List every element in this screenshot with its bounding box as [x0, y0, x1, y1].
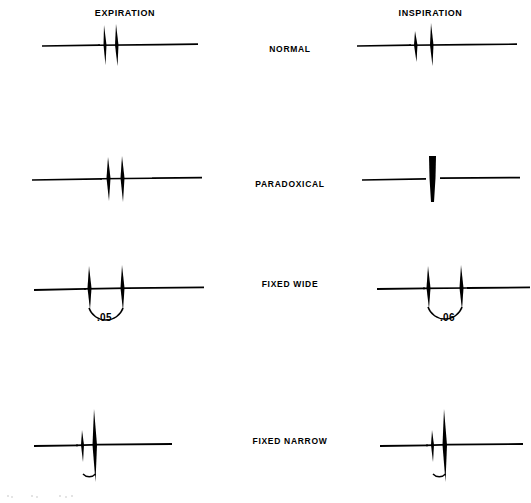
interval-value-fixed-wide-expiration: .05	[97, 312, 112, 323]
waveform-fixed-wide-expiration	[32, 258, 212, 338]
row-label-normal: NORMAL	[215, 44, 365, 54]
scan-artifact	[2, 492, 88, 500]
heart-sound-splitting-figure: EXPIRATION INSPIRATION NORMAL PARADOXICA…	[0, 0, 531, 503]
waveform-normal-expiration	[40, 20, 200, 70]
waveform-normal-inspiration	[355, 20, 520, 70]
row-label-fixed-wide: FIXED WIDE	[215, 279, 365, 289]
waveform-paradoxical-inspiration	[360, 152, 525, 206]
waveform-paradoxical-expiration	[30, 152, 205, 206]
row-label-paradoxical: PARADOXICAL	[215, 179, 365, 189]
interval-value-fixed-wide-inspiration: .06	[440, 312, 455, 323]
waveform-fixed-narrow-inspiration	[378, 404, 528, 494]
column-header-inspiration: INSPIRATION	[358, 8, 503, 18]
row-label-fixed-narrow: FIXED NARROW	[215, 436, 365, 446]
column-header-expiration: EXPIRATION	[55, 8, 195, 18]
waveform-fixed-wide-inspiration	[375, 258, 531, 338]
waveform-fixed-narrow-expiration	[32, 404, 182, 494]
